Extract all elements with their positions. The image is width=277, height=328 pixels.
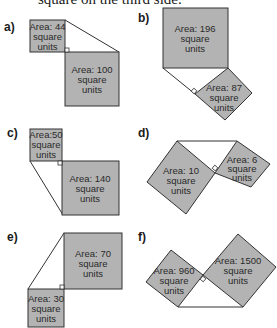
diagram-label: f) [138, 230, 146, 244]
unit-label: units [80, 193, 100, 204]
diagram-label: c) [7, 126, 18, 140]
unit-label: units [36, 149, 56, 160]
unit-label: units [228, 275, 248, 286]
unit-label: units [232, 172, 252, 183]
diagram-label: b) [138, 11, 149, 25]
diagram-f: f) Area: 960 square units Area: 1500 squ… [138, 230, 276, 307]
hypotenuse-line [65, 20, 119, 52]
diagram-a: a) Area: 44 square units Area: 100 squar… [4, 20, 119, 106]
unit-label: units [82, 84, 102, 95]
unit-label: units [37, 41, 57, 52]
pythagorean-diagrams: a) Area: 44 square units Area: 100 squar… [0, 0, 277, 328]
unit-label: units [83, 268, 103, 279]
hypotenuse-line [28, 233, 64, 289]
right-angle-marker [65, 48, 69, 52]
diagram-label: e) [7, 230, 18, 244]
unit-label: units [185, 43, 205, 54]
unit-label: units [214, 102, 234, 113]
hypotenuse-line [163, 68, 195, 94]
unit-label: units [36, 313, 56, 324]
diagram-label: d) [138, 126, 149, 140]
unit-label: units [171, 185, 191, 196]
hypotenuse-line [30, 161, 63, 215]
diagram-e: e) Area: 70 square units Area: 30 square… [7, 230, 122, 327]
unit-label: units [164, 285, 184, 296]
diagram-d: d) Area: 10 square units Area: 6 square … [138, 126, 270, 214]
diagram-b: b) Area: 196 square units Area: 87 squar… [138, 8, 252, 120]
diagram-c: c) Area:50 square units Area: 140 square… [7, 126, 119, 215]
right-angle-marker [60, 285, 64, 289]
diagram-label: a) [4, 20, 15, 34]
right-angle-marker [58, 161, 62, 165]
